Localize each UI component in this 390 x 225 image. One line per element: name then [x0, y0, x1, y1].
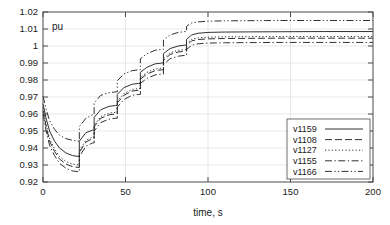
x-tick-label: 150	[283, 186, 299, 197]
x-tick-labels: 050100150200	[40, 186, 381, 197]
x-tick-label: 200	[365, 186, 381, 197]
y-tick-label: 1.01	[20, 23, 39, 34]
line-chart: 050100150200 0.920.930.940.950.960.970.9…	[0, 0, 390, 225]
x-tick-label: 50	[120, 186, 131, 197]
legend-label-v1127[interactable]: v1127	[293, 145, 317, 155]
legend-label-v1166[interactable]: v1166	[293, 167, 317, 177]
y-tick-label: 0.94	[20, 142, 39, 153]
chart-screenshot: 050100150200 0.920.930.940.950.960.970.9…	[0, 0, 390, 225]
y-tick-labels: 0.920.930.940.950.960.970.980.9911.011.0…	[20, 6, 39, 187]
y-tick-label: 0.92	[20, 176, 39, 187]
unit-annotation-label: pu	[52, 21, 63, 32]
x-tick-label: 0	[40, 186, 45, 197]
legend-label-v1159[interactable]: v1159	[293, 124, 317, 134]
y-tick-label: 1	[33, 40, 38, 51]
legend-label-v1155[interactable]: v1155	[293, 156, 317, 166]
legend-label-v1108[interactable]: v1108	[293, 135, 317, 145]
legend[interactable]: v1159v1108v1127v1155v1166	[287, 119, 370, 179]
y-tick-label: 0.96	[20, 108, 39, 119]
x-axis-label: time, s	[193, 207, 222, 218]
x-tick-label: 100	[200, 186, 216, 197]
y-tick-label: 0.93	[20, 159, 39, 170]
y-tick-label: 0.98	[20, 74, 39, 85]
y-tick-label: 0.97	[20, 91, 39, 102]
y-tick-label: 0.99	[20, 57, 39, 68]
y-tick-label: 1.02	[20, 6, 39, 17]
y-tick-label: 0.95	[20, 125, 39, 136]
